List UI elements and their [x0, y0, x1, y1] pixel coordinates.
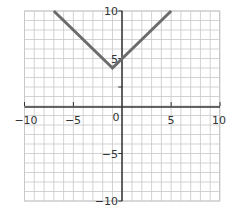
x-tick-label-neg10: −10: [14, 114, 37, 127]
coordinate-plane: −10 −5 0 5 10 10 5 −5 −10: [0, 0, 236, 216]
y-tick-label-neg10: −10: [95, 195, 118, 208]
y-tick-label-5: 5: [111, 53, 118, 66]
x-tick-label-5: 5: [168, 114, 175, 127]
y-tick-label-neg5: −5: [102, 148, 118, 161]
origin-label: 0: [113, 111, 120, 124]
y-tick-label-10: 10: [104, 5, 118, 18]
x-tick-label-10: 10: [212, 114, 226, 127]
x-tick-label-neg5: −5: [65, 114, 81, 127]
